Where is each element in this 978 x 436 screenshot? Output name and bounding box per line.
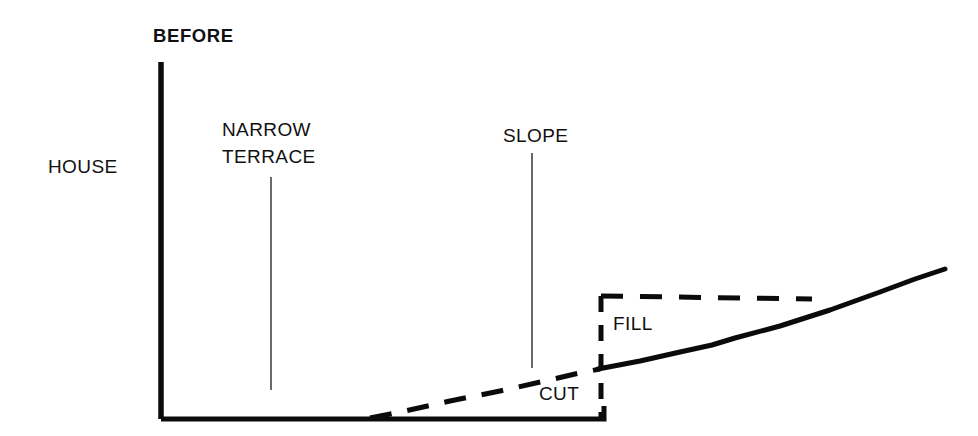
narrow-terrace-label-text-line1: NARROW [222,119,311,140]
diagram-canvas: BEFOREHOUSENARROWTERRACESLOPEFILLCUT [0,0,978,436]
house-label-text: HOUSE [48,156,118,177]
narrow-terrace-label-text-line2: TERRACE [222,146,316,167]
diagram-title-text: BEFORE [153,25,234,46]
fill-label-text: FILL [613,313,653,334]
slope-label-text: SLOPE [503,125,568,146]
cut-label-text: CUT [539,383,579,404]
canvas-background [0,0,978,436]
grading-diagram: BEFOREHOUSENARROWTERRACESLOPEFILLCUT BEF… [0,0,978,436]
